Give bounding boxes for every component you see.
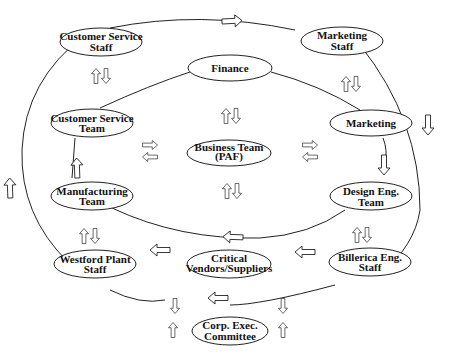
svg-text:Team: Team — [79, 122, 105, 134]
finance-business-arrows — [222, 109, 241, 124]
svg-text:Committee: Committee — [204, 330, 256, 342]
node-customer-service-staff: Customer Service Staff — [59, 28, 142, 56]
node-marketing-staff: Marketing Staff — [301, 27, 383, 55]
node-marketing: Marketing — [330, 110, 412, 136]
mfg-westford-arrows — [80, 229, 100, 244]
business-vendors-arrows — [223, 184, 242, 199]
node-billerica-eng-staff: Billerica Eng. Staff — [329, 248, 411, 276]
arrow-down-icon — [378, 155, 390, 175]
cs-team-business-arrows — [143, 141, 158, 162]
svg-text:Finance: Finance — [211, 62, 248, 74]
node-critical-vendors-suppliers: Critical Vendors/Suppliers — [186, 250, 273, 278]
svg-text:Staff: Staff — [90, 41, 113, 53]
node-westford-plant-staff: Westford Plant Staff — [54, 250, 136, 278]
diagram-canvas: Customer Service Staff Marketing Staff F… — [0, 0, 449, 362]
svg-text:Team: Team — [79, 195, 105, 207]
arrow-left-icon — [208, 292, 228, 304]
arrow-right-icon — [222, 14, 243, 27]
svg-text:Staff: Staff — [84, 263, 107, 275]
svg-text:Team: Team — [358, 196, 384, 208]
svg-text:Vendors/Suppliers: Vendors/Suppliers — [186, 262, 273, 274]
node-finance: Finance — [188, 55, 272, 81]
node-corp-exec-committee: Corp. Exec. Committee — [192, 317, 268, 345]
arrow-up-icon — [4, 178, 17, 198]
svg-text:Marketing: Marketing — [346, 117, 397, 129]
business-marketing-arrows — [303, 141, 318, 162]
corp-exec-arrows-left — [169, 299, 180, 338]
cs-staff-team-arrows — [92, 69, 111, 84]
node-manufacturing-team: Manufacturing Team — [51, 182, 133, 210]
arrow-left-icon — [295, 246, 315, 258]
svg-text:Staff: Staff — [359, 261, 382, 273]
mkt-staff-marketing-arrows — [342, 77, 361, 92]
node-design-eng-team: Design Eng. Team — [330, 182, 412, 210]
arrow-left-icon — [223, 231, 243, 244]
corp-exec-arrows-right — [279, 299, 288, 338]
arrow-left-icon — [150, 244, 170, 256]
svg-text:Staff: Staff — [331, 40, 354, 52]
node-business-team: Business Team (PAF) — [187, 140, 271, 166]
svg-text:(PAF): (PAF) — [215, 150, 243, 163]
node-customer-service-team: Customer Service Team — [50, 109, 133, 137]
arrow-down-icon — [422, 115, 434, 135]
design-billerica-arrows — [353, 228, 372, 243]
